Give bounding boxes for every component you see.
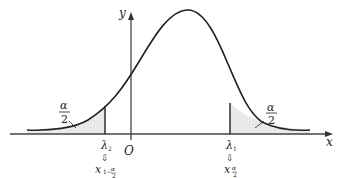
down-arrow-icon: ⇩ xyxy=(101,153,109,163)
lambda2-label: λ 2 ⇩ x 1− α 2 xyxy=(95,139,116,178)
svg-text:x: x xyxy=(224,163,231,176)
svg-text:α: α xyxy=(232,164,236,171)
svg-text:x: x xyxy=(95,163,102,176)
svg-text:2: 2 xyxy=(112,172,116,178)
down-arrow-icon: ⇩ xyxy=(226,153,234,163)
normal-distribution-diagram: y x O α 2 α 2 λ 2 ⇩ x 1− α 2 λ 1 ⇩ x α 2 xyxy=(0,0,340,178)
svg-text:λ: λ xyxy=(100,139,108,152)
svg-text:α: α xyxy=(267,101,275,114)
svg-text:1: 1 xyxy=(233,145,237,152)
x-axis-label: x xyxy=(326,135,333,149)
origin-label: O xyxy=(124,144,134,158)
svg-text:λ: λ xyxy=(225,139,233,152)
svg-text:2: 2 xyxy=(61,113,68,126)
svg-text:2: 2 xyxy=(268,114,275,127)
svg-text:α: α xyxy=(111,165,115,172)
svg-text:2: 2 xyxy=(108,145,112,152)
svg-text:α: α xyxy=(60,99,68,112)
left-area-label: α 2 xyxy=(59,99,76,128)
svg-text:2: 2 xyxy=(233,171,237,178)
lambda1-label: λ 1 ⇩ x α 2 xyxy=(224,139,237,178)
y-axis-label: y xyxy=(118,6,126,20)
y-axis-arrow-icon xyxy=(128,12,134,20)
